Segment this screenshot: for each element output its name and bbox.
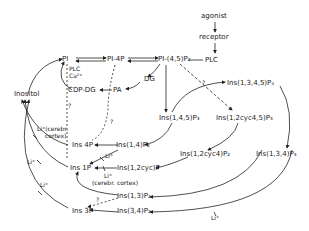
node-pi: PI: [62, 55, 68, 63]
node-plc: PLC: [205, 56, 218, 64]
node-ins4p: Ins 4P: [72, 141, 93, 149]
node-pip2: PI-(4,5)P₂: [158, 55, 190, 63]
node-ins1p: Ins 1P: [70, 164, 91, 172]
question-mark: ?: [110, 118, 113, 125]
node-ins12cyc4p2: Ins(1,2cyc4)P₂: [180, 150, 230, 158]
node-pi4p: PI-4P: [107, 55, 125, 63]
annotation-li: Li⁺: [105, 152, 113, 159]
annotation-li: Li⁺: [27, 158, 35, 165]
question-mark: ?: [96, 196, 99, 203]
node-inositol: Inositol: [14, 90, 39, 98]
annotation-li: Li⁺: [104, 172, 112, 179]
label-plc-enzyme: PLC: [69, 65, 80, 72]
node-dg: DG: [144, 75, 155, 83]
annotation-li: Li⁺: [211, 214, 219, 221]
node-ins12cycp: Ins(1,2cyc)P: [117, 164, 160, 172]
node-ins3p: Ins 3P: [72, 207, 93, 215]
annotation-cerebr-cortex: (cerebr. cortex): [92, 179, 138, 186]
node-ins12cyc45p3: Ins(1,2cyc4,5)P₃: [216, 114, 273, 122]
node-ins145p3: Ins(1,4,5)P₃: [159, 114, 199, 122]
node-cdp-dg: CDP-DG: [68, 86, 96, 94]
node-ins34p2: Ins(3,4)P₂: [117, 207, 151, 215]
pathway-diagram: agonist receptor PLC PI PI-4P PI-(4,5)P₂…: [0, 0, 309, 231]
label-calcium: Ca²⁺: [69, 72, 82, 79]
question-mark: ?: [68, 102, 71, 109]
node-ins13p2: Ins(1,3)P₂: [117, 192, 151, 200]
node-receptor: receptor: [199, 33, 229, 41]
node-ins14p2: Ins(1,4)P₂: [116, 141, 150, 149]
node-ins134p3: Ins(1,3,4)P₃: [256, 150, 296, 158]
annotation-cortex: cortex): [45, 132, 66, 139]
annotation-li: Li⁺: [40, 181, 48, 188]
annotation-li-cerebr: Li⁺(cerebr.: [37, 125, 68, 132]
node-agonist: agonist: [201, 12, 227, 20]
node-pa: PA: [113, 86, 122, 94]
node-ins1345p4: Ins(1,3,4,5)P₄: [227, 79, 274, 87]
question-mark: ?: [202, 79, 205, 86]
